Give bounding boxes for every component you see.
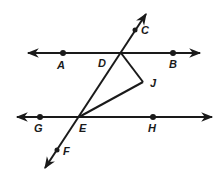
label-G: G [34, 122, 43, 134]
point-C [133, 28, 138, 33]
segment-EJ [79, 82, 143, 117]
point-A [60, 50, 66, 56]
label-E: E [79, 122, 87, 134]
geometry-diagram: A D B C J G E H F [0, 0, 224, 181]
label-H: H [148, 122, 157, 134]
transversal-CF [45, 14, 146, 168]
label-A: A [56, 59, 65, 71]
point-G [37, 114, 43, 120]
label-J: J [150, 77, 157, 89]
point-F [55, 148, 60, 153]
point-H [150, 114, 156, 120]
label-D: D [98, 57, 106, 69]
label-F: F [63, 145, 70, 157]
label-C: C [141, 24, 150, 36]
point-B [170, 50, 176, 56]
label-B: B [169, 58, 177, 70]
segment-DJ [121, 53, 143, 82]
